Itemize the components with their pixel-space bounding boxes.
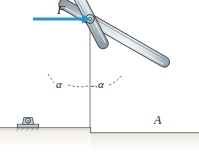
- left-bar-group: [57, 0, 171, 69]
- left-bar-highlight: [63, 6, 164, 64]
- angle-right-label: α: [98, 79, 104, 90]
- angle-left-leader: [48, 74, 54, 83]
- statics-figure: F A α α: [0, 0, 199, 160]
- angle-left-arc: [68, 85, 88, 87]
- ground-step-shadow: [0, 129, 90, 131]
- ground-group: [0, 128, 199, 152]
- construction-lines-group: [48, 22, 122, 128]
- left-support-pin-hole-icon: [27, 120, 29, 122]
- angle-left-label: α: [56, 79, 62, 90]
- point-a-label: A: [154, 114, 161, 126]
- angle-right-arc-outer: [109, 75, 122, 85]
- force-label: F: [57, 3, 65, 16]
